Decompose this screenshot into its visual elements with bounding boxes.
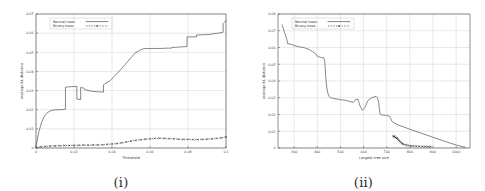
- y-tick-label: 0.05: [268, 63, 275, 67]
- chart-svg-ii: 00.010.020.030.040.050.060.070.083004005…: [242, 0, 485, 168]
- legend-label: Binary trees: [53, 24, 74, 28]
- y-tick-label: 0.06: [26, 31, 33, 35]
- series-line-normal-trees: [282, 25, 465, 147]
- figure-caption-ii: (ii): [242, 175, 485, 190]
- x-tick-label: 0.04: [108, 150, 115, 154]
- x-tick-label: 400: [314, 150, 320, 154]
- y-tick-label: 0.04: [268, 79, 275, 83]
- y-tick-label: 0.04: [26, 70, 33, 74]
- legend-label: Normal trees: [53, 20, 75, 24]
- y-tick-label: 0.01: [268, 130, 275, 134]
- y-tick-label: 0.03: [268, 96, 275, 100]
- x-tick-label: 300: [291, 150, 297, 154]
- x-tick-label: 600: [360, 150, 366, 154]
- plot-area-ii: 00.010.020.030.040.050.060.070.083004005…: [242, 0, 485, 168]
- y-tick-label: 0.06: [268, 46, 275, 50]
- y-tick-label: 0.02: [26, 108, 33, 112]
- x-tick-label: 900: [430, 150, 436, 154]
- plot-area-i: 00.010.020.030.040.050.060.0700.020.040.…: [0, 0, 242, 168]
- y-tick-label: 0.03: [26, 89, 33, 93]
- x-axis-title: Largest tree size: [359, 156, 390, 160]
- chart-panel-ii: 00.010.020.030.040.050.060.070.083004005…: [242, 0, 485, 191]
- y-axis-title: average KL distance: [262, 62, 266, 99]
- y-tick-label: 0.05: [26, 51, 33, 55]
- x-tick-label: 0.02: [70, 150, 77, 154]
- x-tick-label: 700: [384, 150, 390, 154]
- y-tick-label: 0.01: [26, 127, 33, 131]
- x-tick-label: 0: [35, 150, 37, 154]
- legend-label: Normal trees: [295, 20, 317, 24]
- legend-label: Binary trees: [295, 24, 316, 28]
- y-axis-title: average KL distance: [20, 62, 24, 99]
- y-tick-label: 0.07: [26, 12, 33, 16]
- series-line-binary-trees: [36, 137, 226, 148]
- chart-panel-i: 00.010.020.030.040.050.060.0700.020.040.…: [0, 0, 242, 191]
- figure-container: 00.010.020.030.040.050.060.0700.020.040.…: [0, 0, 485, 191]
- x-tick-label: 0.06: [146, 150, 153, 154]
- y-tick-label: 0: [31, 146, 33, 150]
- y-tick-label: 0.02: [268, 113, 275, 117]
- y-tick-label: 0.07: [268, 29, 275, 33]
- x-tick-label: 0.1: [223, 150, 228, 154]
- x-tick-label: 800: [407, 150, 413, 154]
- x-tick-label: 1000: [452, 150, 460, 154]
- series-line-normal-trees: [36, 21, 226, 147]
- chart-svg-i: 00.010.020.030.040.050.060.0700.020.040.…: [0, 0, 242, 168]
- x-tick-label: 500: [337, 150, 343, 154]
- plot-frame: [36, 14, 226, 148]
- x-axis-title: Threshold: [121, 156, 140, 160]
- y-tick-label: 0: [273, 146, 275, 150]
- x-tick-label: 0.08: [184, 150, 191, 154]
- y-tick-label: 0.08: [268, 12, 275, 16]
- figure-caption-i: (i): [0, 175, 242, 190]
